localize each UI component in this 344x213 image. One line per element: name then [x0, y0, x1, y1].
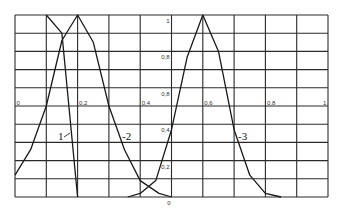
x-tick-label: 0,4 [142, 100, 151, 106]
curve-1-pointer [64, 133, 70, 137]
x-tick-label: 1 [323, 100, 327, 106]
curve-2-label: -2 [122, 130, 131, 142]
y-tick-label: 0 [167, 200, 171, 206]
y-axis-tick-labels: 10,80,80,40,20 [161, 18, 171, 206]
y-tick-label: 1 [166, 18, 170, 24]
curve-3-label: -3 [238, 130, 248, 142]
x-tick-label: 0,8 [267, 100, 276, 106]
x-tick-label: 0 [17, 100, 21, 106]
y-tick-label: 0,8 [161, 54, 170, 60]
y-tick-label: 0,4 [161, 127, 170, 133]
y-tick-label: 0,2 [161, 164, 170, 170]
x-tick-label: 0,6 [204, 100, 213, 106]
x-tick-label: 0,2 [79, 100, 88, 106]
y-tick-label: 0,8 [161, 91, 170, 97]
curve-1-label: 1 [58, 130, 64, 142]
membership-function-chart: 00,20,40,60,81 10,80,80,40,20 1 -2 -3 [0, 0, 344, 213]
